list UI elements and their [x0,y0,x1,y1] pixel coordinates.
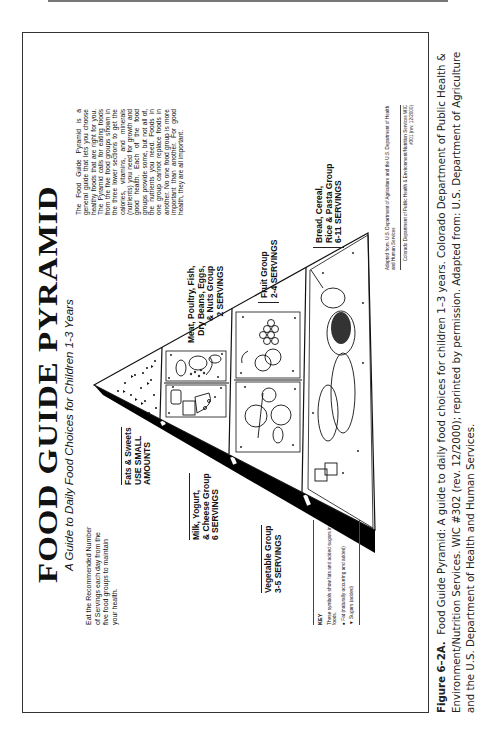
label-bread: Bread, Cereal, Rice & Pasta Group 6-11 S… [313,164,344,248]
key-sugar-row: ▼ Sugars (added) [349,520,355,625]
fats-servings-2: AMOUNTS [143,427,153,485]
meat-servings: 2 SERVINGS [216,266,226,343]
label-fats: Fats & Sweets USE SMALL AMOUNTS [121,427,153,485]
fat-dot-icon: ● [341,622,346,625]
sugar-triangle-icon: ▼ [349,620,354,625]
top-rule [48,0,448,2]
vegetable-servings: 3-5 SERVINGS [274,525,284,593]
label-vegetable: Vegetable Group 3-5 SERVINGS [261,525,283,593]
poster-content: FOOD GUIDE PYRAMID A Guide to Daily Food… [23,32,430,713]
pyramid-face [94,233,375,530]
key-description: These symbols show fats and added sugars… [327,520,338,625]
figure-caption: Figure 6–2A. Food Guide Pyramid: A guide… [435,33,479,713]
key-fat-label: Fat (naturally occurring and added) [341,546,346,621]
figure-caption-text: Food Guide Pyramid: A guide to daily foo… [436,52,476,713]
credit-adapted: Adapted from: U.S. Department of Agricul… [385,105,396,270]
credit-block: Adapted from: U.S. Department of Agricul… [385,105,414,270]
credit-org: Colorado Department of Public Health & E… [400,105,414,270]
label-milk: Milk, Yogurt, & Cheese Group 6 SERVINGS [189,473,221,540]
label-fruit: Fruit Group 2-4 SERVINGS [258,240,279,303]
spaghetti-fill [331,312,351,344]
bread-servings: 6-11 SERVINGS [334,164,344,243]
key-sugar-label: Sugars (added) [349,586,354,619]
figure-label: Figure 6–2A. [436,641,447,713]
label-meat: Meat, Poultry, Fish, Dry Beans, Eggs, & … [185,266,225,343]
key-title: KEY [318,520,324,625]
milk-servings: 6 SERVINGS [211,473,221,540]
pyramid-graphic [23,32,430,713]
fruit-servings: 2-4 SERVINGS [270,240,280,298]
key-fat-row: ● Fat (naturally occurring and added) [341,520,347,625]
key-box: KEY These symbols show fats and added su… [313,520,360,625]
